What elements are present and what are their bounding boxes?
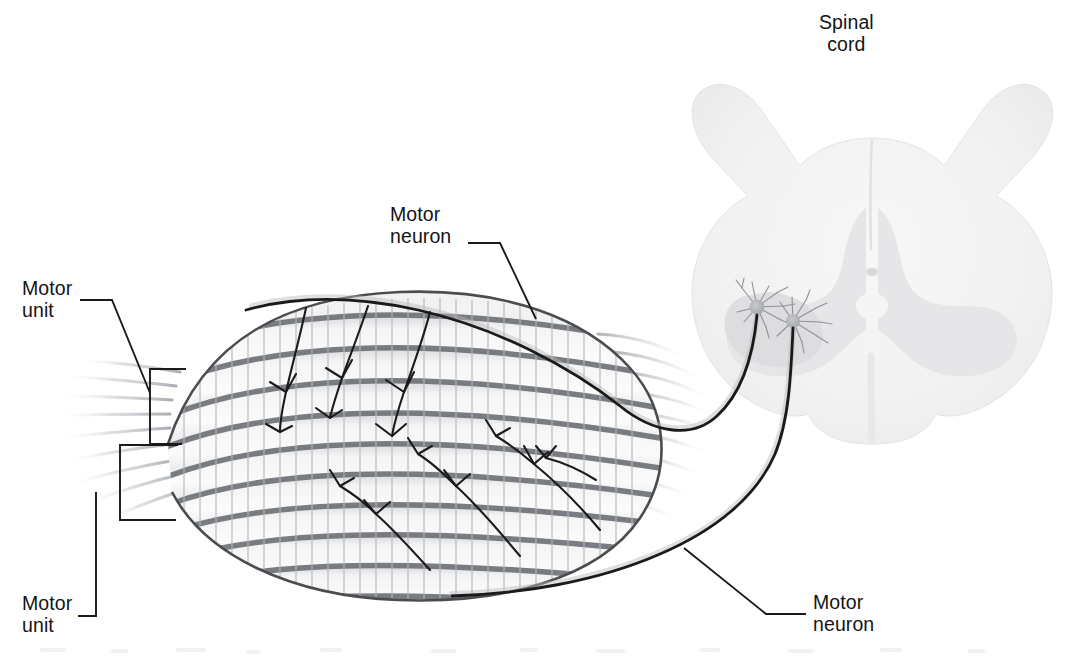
label-motor-neuron-bottom: Motor neuron	[813, 591, 874, 635]
ventral-median-fissure	[871, 356, 872, 440]
central-canal	[866, 268, 878, 276]
anatomy-illustration	[0, 0, 1088, 661]
skeletal-muscle	[56, 292, 714, 627]
label-motor-unit-bottom: Motor unit	[22, 592, 72, 636]
label-motor-unit-top: Motor unit	[22, 277, 72, 321]
spinal-cord-cross-section	[692, 85, 1053, 444]
figure-canvas: Spinal cord Motor neuron Motor unit Moto…	[0, 0, 1088, 661]
leader-motor-neuron-bottom	[684, 548, 806, 614]
label-motor-neuron-top: Motor neuron	[390, 203, 451, 247]
leader-motor-unit-bottom	[78, 492, 96, 616]
scan-artifact	[40, 648, 986, 654]
label-spinal-cord: Spinal cord	[819, 11, 874, 55]
